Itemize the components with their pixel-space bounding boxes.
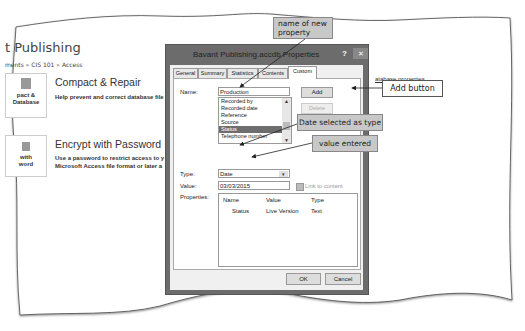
tab-custom[interactable]: Custom [288,66,317,79]
screenshot-page: t Publishing ments » CIS 101 » Access pa… [0,0,525,331]
callout-arrows [0,0,525,331]
